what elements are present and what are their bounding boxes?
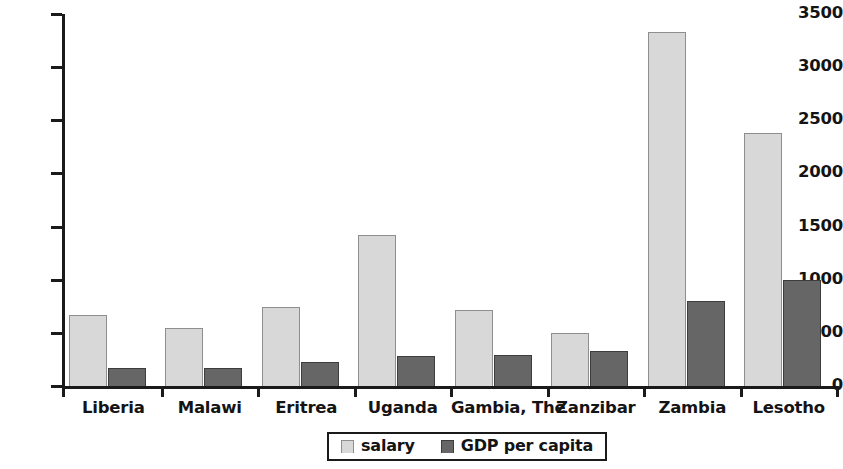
- bar-gdp-per-capita-malawi: [204, 368, 242, 386]
- light-gray-square-swatch: [341, 440, 354, 453]
- legend-item-gdp-per-capita: GDP per capita: [441, 438, 593, 454]
- x-axis-label-zanzibar: Zanzibar: [548, 397, 645, 418]
- bar-salary-zambia: [648, 32, 686, 386]
- x-axis-label-gambia-the: Gambia, The: [451, 397, 548, 418]
- x-axis-separator: [836, 386, 839, 397]
- y-axis-tick: [51, 226, 62, 229]
- dark-gray-square-swatch: [441, 440, 454, 453]
- bar-salary-eritrea: [262, 307, 300, 386]
- y-axis-tick: [51, 385, 62, 388]
- y-axis-tick: [51, 119, 62, 122]
- x-axis-separator: [547, 386, 550, 397]
- bar-group: [548, 14, 645, 386]
- plot-area: [65, 14, 837, 386]
- bar-salary-liberia: [69, 315, 107, 386]
- bar-gdp-per-capita-lesotho: [783, 280, 821, 386]
- x-axis-label-zambia: Zambia: [644, 397, 741, 418]
- x-axis-separator: [257, 386, 260, 397]
- x-axis-separator: [161, 386, 164, 397]
- bar-gdp-per-capita-liberia: [108, 368, 146, 386]
- bar-salary-zanzibar: [551, 333, 589, 386]
- bar-gdp-per-capita-zanzibar: [590, 351, 628, 386]
- bar-salary-gambia-the: [455, 310, 493, 386]
- x-axis-separator: [450, 386, 453, 397]
- bar-group: [65, 14, 162, 386]
- bar-salary-malawi: [165, 328, 203, 386]
- bar-group: [741, 14, 838, 386]
- legend-label-gdp-per-capita: GDP per capita: [461, 438, 593, 454]
- x-axis-separator: [354, 386, 357, 397]
- legend-label-salary: salary: [361, 438, 415, 454]
- x-axis-label-malawi: Malawi: [162, 397, 259, 418]
- y-axis-tick: [51, 332, 62, 335]
- legend-item-salary: salary: [341, 438, 415, 454]
- y-axis-tick: [51, 66, 62, 69]
- x-axis-separator: [62, 386, 65, 397]
- bar-gdp-per-capita-uganda: [397, 356, 435, 386]
- y-axis-tick: [51, 13, 62, 16]
- x-axis-label-uganda: Uganda: [355, 397, 452, 418]
- chart-legend: salary GDP per capita: [327, 432, 607, 461]
- bar-group: [355, 14, 452, 386]
- y-axis-tick: [51, 172, 62, 175]
- bar-chart: 0500100015002000250030003500 LiberiaMala…: [0, 0, 843, 469]
- bar-group: [258, 14, 355, 386]
- y-axis-tick: [51, 279, 62, 282]
- bar-gdp-per-capita-gambia-the: [494, 355, 532, 386]
- bar-salary-lesotho: [744, 133, 782, 386]
- bar-group: [644, 14, 741, 386]
- bar-group: [451, 14, 548, 386]
- x-axis-separator: [643, 386, 646, 397]
- x-axis-label-lesotho: Lesotho: [741, 397, 838, 418]
- x-axis-separator: [740, 386, 743, 397]
- x-axis-label-liberia: Liberia: [65, 397, 162, 418]
- bar-group: [162, 14, 259, 386]
- bar-gdp-per-capita-zambia: [687, 301, 725, 386]
- x-axis-label-eritrea: Eritrea: [258, 397, 355, 418]
- bar-salary-uganda: [358, 235, 396, 386]
- bar-gdp-per-capita-eritrea: [301, 362, 339, 386]
